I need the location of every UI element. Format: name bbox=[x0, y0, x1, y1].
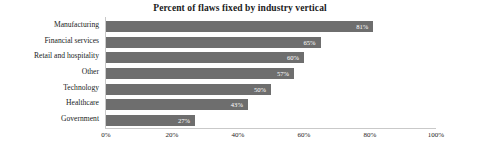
bar-value-label: 65% bbox=[106, 37, 316, 48]
category-label: Other bbox=[0, 67, 101, 76]
x-tick-label: 80% bbox=[350, 131, 390, 139]
x-tick-label: 40% bbox=[218, 131, 258, 139]
bar-row: 50% bbox=[106, 84, 436, 95]
x-tick-label: 60% bbox=[284, 131, 324, 139]
x-tick-label: 0% bbox=[86, 131, 126, 139]
category-label: Retail and hospitality bbox=[0, 51, 101, 60]
x-tick-label: 20% bbox=[152, 131, 192, 139]
category-label: Government bbox=[0, 114, 101, 123]
bar-row: 60% bbox=[106, 52, 436, 63]
bar-row: 81% bbox=[106, 21, 436, 32]
x-tick-label: 100% bbox=[416, 131, 456, 139]
chart-title: Percent of flaws fixed by industry verti… bbox=[0, 3, 480, 13]
category-label: Technology bbox=[0, 83, 101, 92]
bar-value-label: 43% bbox=[106, 99, 243, 110]
x-axis-tick-labels: 0%20%40%60%80%100% bbox=[0, 131, 480, 145]
bar-value-label: 27% bbox=[106, 115, 190, 126]
bar-row: 43% bbox=[106, 99, 436, 110]
bar-value-label: 60% bbox=[106, 52, 299, 63]
x-axis-line bbox=[105, 128, 436, 129]
bar-row: 65% bbox=[106, 37, 436, 48]
bar-row: 57% bbox=[106, 68, 436, 79]
plot-area: 81%65%60%57%50%43%27% bbox=[106, 19, 436, 128]
category-label: Healthcare bbox=[0, 98, 101, 107]
y-axis-category-labels: ManufacturingFinancial servicesRetail an… bbox=[0, 19, 101, 128]
bar-row: 27% bbox=[106, 115, 436, 126]
category-label: Financial services bbox=[0, 36, 101, 45]
category-label: Manufacturing bbox=[0, 20, 101, 29]
bar-value-label: 81% bbox=[106, 21, 368, 32]
bar-chart: Percent of flaws fixed by industry verti… bbox=[0, 0, 480, 151]
bar-value-label: 57% bbox=[106, 68, 289, 79]
bar-value-label: 50% bbox=[106, 84, 266, 95]
